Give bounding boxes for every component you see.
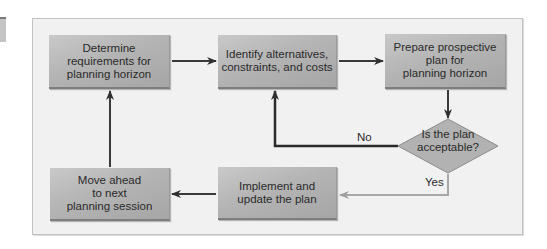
node-prepare-label: Prepare prospective plan for planning ho… [394,41,497,80]
node-implement-plan: Implement and update the plan [218,167,337,220]
node-move-ahead-label: Move ahead to next planning session [67,174,153,213]
decision-label: Is the plan acceptable? [398,128,498,154]
node-identify-alternatives: Identify alternatives, constraints, and … [218,35,337,89]
edge-label-yes: Yes [425,176,444,188]
node-prepare-plan: Prepare prospective plan for planning ho… [385,34,506,89]
node-identify-label: Identify alternatives, constraints, and … [221,48,332,74]
diagram-canvas: Determine requirements for planning hori… [0,0,547,249]
node-move-ahead: Move ahead to next planning session [50,168,170,221]
node-determine-requirements: Determine requirements for planning hori… [49,35,170,89]
node-determine-label: Determine requirements for planning hori… [67,42,151,81]
side-tab-marker [0,17,6,42]
node-implement-label: Implement and update the plan [237,180,316,206]
edge-label-no: No [357,131,372,143]
